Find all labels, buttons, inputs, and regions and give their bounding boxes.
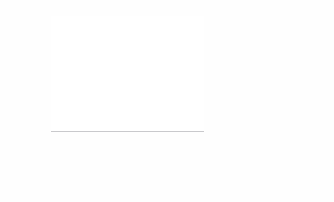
plot-area xyxy=(51,16,204,132)
y-axis-tick-labels xyxy=(26,16,49,132)
bar-series-group xyxy=(51,16,204,132)
chart-container xyxy=(0,0,334,202)
x-axis-tick-labels xyxy=(51,132,204,176)
